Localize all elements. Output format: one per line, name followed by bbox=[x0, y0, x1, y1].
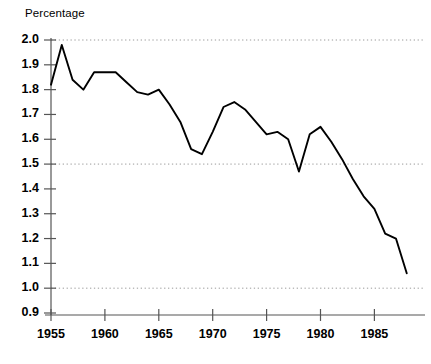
y-tick-label: 1.7 bbox=[5, 106, 39, 120]
x-tick-label: 1985 bbox=[352, 327, 396, 341]
data-series-line bbox=[51, 45, 407, 273]
y-tick-label: 1.0 bbox=[5, 280, 39, 294]
gridlines bbox=[51, 40, 425, 288]
y-tick-label: 1.8 bbox=[5, 82, 39, 96]
x-tick-label: 1965 bbox=[137, 327, 181, 341]
percentage-line-chart: Percentage 2.01.91.81.71.61.51.41.31.21.… bbox=[0, 0, 431, 364]
plot-area bbox=[0, 0, 431, 364]
y-axis-ticks bbox=[44, 40, 56, 313]
y-tick-label: 1.2 bbox=[5, 231, 39, 245]
y-tick-label: 1.4 bbox=[5, 181, 39, 195]
y-tick-label: 1.3 bbox=[5, 206, 39, 220]
y-tick-label: 1.6 bbox=[5, 131, 39, 145]
y-tick-label: 0.9 bbox=[5, 305, 39, 319]
x-tick-label: 1975 bbox=[245, 327, 289, 341]
x-tick-label: 1970 bbox=[191, 327, 235, 341]
x-tick-label: 1960 bbox=[83, 327, 127, 341]
y-tick-label: 2.0 bbox=[5, 32, 39, 46]
y-tick-label: 1.1 bbox=[5, 255, 39, 269]
y-tick-label: 1.9 bbox=[5, 57, 39, 71]
y-tick-label: 1.5 bbox=[5, 156, 39, 170]
x-tick-label: 1980 bbox=[299, 327, 343, 341]
x-tick-label: 1955 bbox=[29, 327, 73, 341]
